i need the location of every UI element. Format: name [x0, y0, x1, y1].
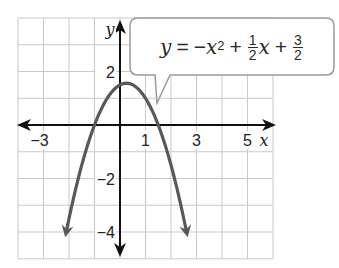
fraction-three-halves: 3 2 [293, 33, 303, 62]
y-tick-label: −2 [97, 171, 115, 188]
callout-neg: − [194, 35, 206, 59]
callout-y: y [160, 35, 171, 59]
y-tick-label: −4 [97, 224, 115, 241]
callout-x1: x [206, 35, 217, 59]
y-axis-name: y [104, 20, 115, 39]
frac1-numerator: 1 [248, 33, 258, 48]
y-tick-label: 2 [106, 64, 115, 81]
callout-exponent: 2 [217, 38, 224, 53]
frac2-denominator: 2 [294, 48, 302, 62]
curve-arrows [62, 224, 191, 237]
frac1-denominator: 2 [249, 48, 257, 62]
frac2-numerator: 3 [293, 33, 303, 48]
parabola-curve [67, 83, 186, 228]
x-axis-name: x [259, 131, 268, 150]
x-tick-label: 3 [192, 132, 201, 149]
fraction-one-half: 1 2 [248, 33, 258, 62]
callout-plus2: + [275, 35, 287, 59]
equation-callout: y = − x2 + 1 2 x + 3 2 [131, 21, 333, 73]
x-tick-label: −3 [30, 132, 48, 149]
callout-x2: x [259, 35, 270, 59]
callout-plus1: + [229, 35, 241, 59]
callout-equals: = [176, 35, 188, 59]
x-tick-label: 5 [243, 132, 252, 149]
x-tick-label: 1 [141, 132, 150, 149]
